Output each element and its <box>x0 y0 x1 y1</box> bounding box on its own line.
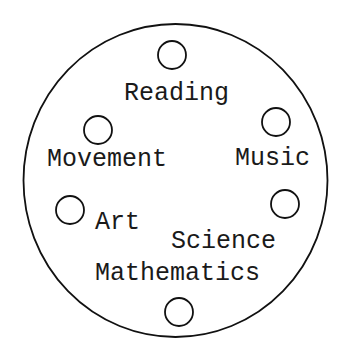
music-label: Music <box>235 144 310 173</box>
node-science: Science <box>171 190 299 256</box>
node-reading: Reading <box>124 41 229 108</box>
movement-label: Movement <box>47 145 167 174</box>
mathematics-label: Mathematics <box>95 259 260 288</box>
activity-circle-diagram: Reading Music Movement Art Science Mathe… <box>0 0 346 357</box>
art-marker-circle <box>56 196 84 224</box>
science-marker-circle <box>271 190 299 218</box>
mathematics-marker-circle <box>165 298 193 326</box>
node-music: Music <box>235 108 310 173</box>
science-label: Science <box>171 227 276 256</box>
music-marker-circle <box>262 108 290 136</box>
node-art: Art <box>56 196 140 237</box>
art-label: Art <box>95 208 140 237</box>
node-movement: Movement <box>47 116 167 174</box>
node-mathematics: Mathematics <box>95 259 260 326</box>
reading-marker-circle <box>158 41 186 69</box>
reading-label: Reading <box>124 79 229 108</box>
movement-marker-circle <box>84 116 112 144</box>
outer-circle <box>24 24 328 337</box>
